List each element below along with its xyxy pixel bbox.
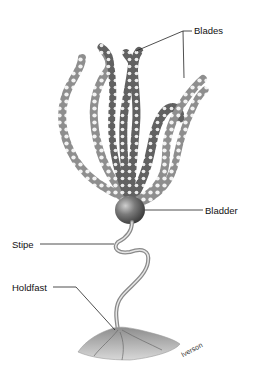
bladder-bulb — [115, 196, 145, 224]
blades-leader — [136, 31, 192, 78]
label-holdfast: Holdfast — [12, 283, 47, 293]
stipe — [116, 222, 149, 330]
blade-5 — [131, 51, 139, 193]
label-stipe: Stipe — [12, 240, 34, 250]
kelp-diagram — [0, 0, 254, 375]
label-bladder: Bladder — [205, 206, 238, 216]
holdfast-leader — [53, 287, 115, 330]
holdfast — [78, 327, 180, 360]
label-blades: Blades — [194, 26, 223, 36]
